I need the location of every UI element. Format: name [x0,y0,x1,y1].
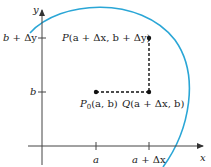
y-axis-label: y [32,4,39,15]
point-Q [147,90,151,94]
label-P0: P0(a, b) [79,98,118,111]
x-tick-label-a-plus-dx: a + Δx [132,154,166,165]
label-P: P(a + Δx, b + Δy) [61,32,151,43]
x-tick-label-a: a [93,154,99,165]
point-P0 [94,90,98,94]
diagram-canvas: y x b + Δy b a a + Δx P(a + Δx, b + Δy) … [0,0,211,167]
label-Q: Q(a + Δx, b) [122,98,184,109]
x-axis-label: x [200,152,206,163]
y-tick-label-b: b [30,86,36,97]
y-tick-label-b-plus-dy: b + Δy [3,32,37,43]
